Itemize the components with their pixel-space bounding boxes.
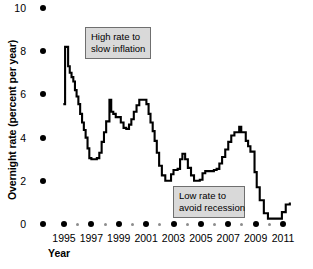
annotation-low-rate: Low rate toavoid recession <box>173 186 245 218</box>
annotation-line: slow inflation <box>91 43 145 55</box>
x-axis-minor-tick-dot <box>76 223 79 226</box>
x-axis-tick-dot <box>253 221 259 227</box>
x-axis-tick-dot <box>116 221 122 227</box>
x-axis-tick-label: 2011 <box>263 232 303 244</box>
x-axis-tick-dot <box>198 221 204 227</box>
annotation-high-rate: High rate toslow inflation <box>85 27 151 59</box>
x-axis-title: Year <box>48 247 70 259</box>
x-axis-tick-dot <box>280 221 286 227</box>
x-axis-minor-tick-dot <box>213 223 216 226</box>
x-axis-tick-dot <box>61 221 67 227</box>
annotation-line: Low rate to <box>179 190 239 202</box>
annotation-line: avoid recession <box>179 202 239 214</box>
x-axis-minor-tick-dot <box>104 223 107 226</box>
x-axis-tick-dot <box>171 221 177 227</box>
plot-area <box>0 0 313 269</box>
x-axis-minor-tick-dot <box>186 223 189 226</box>
x-axis-minor-tick-dot <box>158 223 161 226</box>
x-axis-minor-tick-dot <box>268 223 271 226</box>
annotation-line: High rate to <box>91 31 145 43</box>
x-axis-minor-tick-dot <box>131 223 134 226</box>
chart-figure: Overnight rate (percent per year) 108642… <box>0 0 313 269</box>
